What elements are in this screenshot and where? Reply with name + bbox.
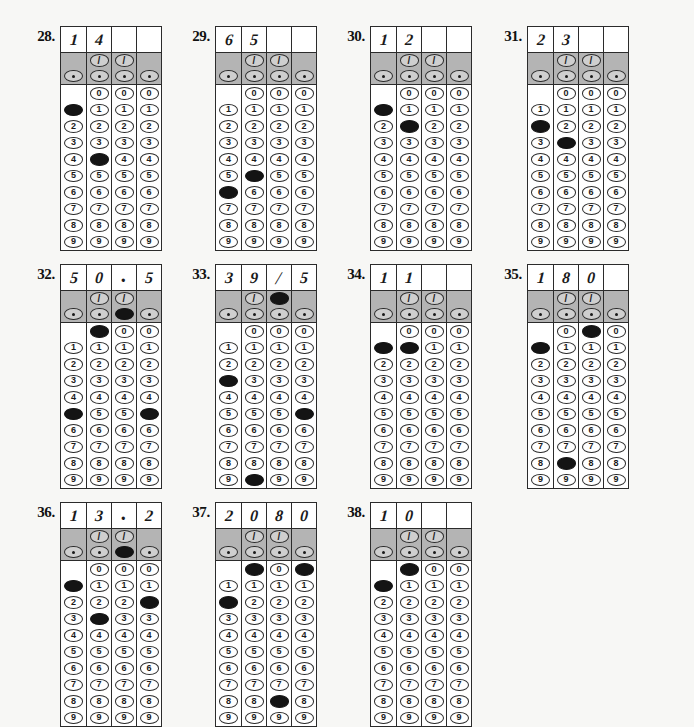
bubble-7[interactable]: 7 xyxy=(531,203,550,216)
bubble-6[interactable]: 6 xyxy=(115,186,134,199)
bubble-1[interactable]: 1 xyxy=(374,342,393,355)
bubble-0[interactable]: 0 xyxy=(140,87,159,100)
handwriting-box[interactable] xyxy=(603,27,628,52)
bubble-3[interactable]: 3 xyxy=(115,613,134,626)
bubble-0[interactable]: 0 xyxy=(90,87,109,100)
bubble-8[interactable]: 8 xyxy=(425,457,444,470)
handwriting-box[interactable] xyxy=(446,27,471,52)
bubble-5[interactable]: 5 xyxy=(531,408,550,421)
bubble-slash[interactable]: / xyxy=(245,54,264,67)
bubble-9[interactable]: 9 xyxy=(90,236,109,249)
bubble-4[interactable]: 4 xyxy=(450,391,469,404)
bubble-4[interactable]: 4 xyxy=(374,153,393,166)
handwriting-box[interactable]: 2 xyxy=(528,27,553,52)
bubble-4[interactable]: 4 xyxy=(219,629,238,642)
bubble-slash[interactable]: / xyxy=(425,54,444,67)
bubble-1[interactable]: 1 xyxy=(425,104,444,117)
bubble-6[interactable]: 6 xyxy=(582,186,601,199)
bubble-5[interactable]: 5 xyxy=(374,408,393,421)
bubble-2[interactable]: 2 xyxy=(140,120,159,133)
handwriting-box[interactable]: 0 xyxy=(241,503,266,528)
bubble-slash[interactable]: / xyxy=(90,292,109,305)
bubble-6[interactable]: 6 xyxy=(295,424,314,437)
bubble-6[interactable]: 6 xyxy=(374,186,393,199)
bubble-0[interactable]: 0 xyxy=(400,563,419,576)
bubble-5[interactable]: 5 xyxy=(90,170,109,183)
bubble-decimal[interactable] xyxy=(115,546,134,559)
bubble-3[interactable]: 3 xyxy=(140,613,159,626)
bubble-1[interactable]: 1 xyxy=(140,104,159,117)
bubble-7[interactable]: 7 xyxy=(607,441,626,454)
bubble-5[interactable]: 5 xyxy=(400,408,419,421)
bubble-0[interactable]: 0 xyxy=(115,87,134,100)
bubble-decimal[interactable] xyxy=(400,308,419,321)
bubble-1[interactable]: 1 xyxy=(245,342,264,355)
bubble-1[interactable]: 1 xyxy=(270,580,289,593)
bubble-1[interactable]: 1 xyxy=(64,342,83,355)
bubble-2[interactable]: 2 xyxy=(270,358,289,371)
handwriting-box[interactable]: 1 xyxy=(371,265,396,290)
bubble-9[interactable]: 9 xyxy=(64,712,83,725)
bubble-7[interactable]: 7 xyxy=(425,203,444,216)
bubble-6[interactable]: 6 xyxy=(450,424,469,437)
bubble-2[interactable]: 2 xyxy=(295,120,314,133)
bubble-3[interactable]: 3 xyxy=(295,375,314,388)
bubble-0[interactable]: 0 xyxy=(140,563,159,576)
bubble-7[interactable]: 7 xyxy=(64,203,83,216)
bubble-3[interactable]: 3 xyxy=(219,375,238,388)
bubble-decimal[interactable] xyxy=(531,70,550,83)
bubble-6[interactable]: 6 xyxy=(425,424,444,437)
bubble-slash[interactable]: / xyxy=(115,54,134,67)
bubble-1[interactable]: 1 xyxy=(400,342,419,355)
bubble-8[interactable]: 8 xyxy=(270,219,289,232)
bubble-slash[interactable]: / xyxy=(270,54,289,67)
bubble-1[interactable]: 1 xyxy=(270,342,289,355)
handwriting-box[interactable] xyxy=(603,265,628,290)
bubble-1[interactable]: 1 xyxy=(450,580,469,593)
bubble-decimal[interactable] xyxy=(582,70,601,83)
bubble-9[interactable]: 9 xyxy=(270,712,289,725)
bubble-4[interactable]: 4 xyxy=(64,153,83,166)
bubble-3[interactable]: 3 xyxy=(425,613,444,626)
bubble-9[interactable]: 9 xyxy=(425,236,444,249)
bubble-1[interactable]: 1 xyxy=(115,580,134,593)
bubble-8[interactable]: 8 xyxy=(64,457,83,470)
bubble-8[interactable]: 8 xyxy=(270,457,289,470)
bubble-7[interactable]: 7 xyxy=(582,203,601,216)
bubble-0[interactable]: 0 xyxy=(270,87,289,100)
bubble-6[interactable]: 6 xyxy=(90,424,109,437)
bubble-5[interactable]: 5 xyxy=(450,170,469,183)
bubble-0[interactable]: 0 xyxy=(557,325,576,338)
bubble-2[interactable]: 2 xyxy=(400,596,419,609)
bubble-decimal[interactable] xyxy=(607,308,626,321)
bubble-8[interactable]: 8 xyxy=(531,219,550,232)
bubble-4[interactable]: 4 xyxy=(400,153,419,166)
handwriting-box[interactable] xyxy=(291,27,316,52)
bubble-3[interactable]: 3 xyxy=(245,375,264,388)
bubble-8[interactable]: 8 xyxy=(219,695,238,708)
bubble-4[interactable]: 4 xyxy=(295,153,314,166)
bubble-6[interactable]: 6 xyxy=(140,186,159,199)
bubble-3[interactable]: 3 xyxy=(607,375,626,388)
handwriting-box[interactable]: 0 xyxy=(578,265,603,290)
bubble-9[interactable]: 9 xyxy=(582,474,601,487)
bubble-9[interactable]: 9 xyxy=(450,712,469,725)
bubble-3[interactable]: 3 xyxy=(450,375,469,388)
bubble-6[interactable]: 6 xyxy=(607,424,626,437)
bubble-7[interactable]: 7 xyxy=(245,441,264,454)
bubble-3[interactable]: 3 xyxy=(582,375,601,388)
bubble-8[interactable]: 8 xyxy=(557,219,576,232)
bubble-4[interactable]: 4 xyxy=(425,153,444,166)
bubble-8[interactable]: 8 xyxy=(374,219,393,232)
handwriting-box[interactable]: 1 xyxy=(371,503,396,528)
bubble-8[interactable]: 8 xyxy=(450,457,469,470)
bubble-1[interactable]: 1 xyxy=(374,580,393,593)
bubble-0[interactable]: 0 xyxy=(450,563,469,576)
bubble-6[interactable]: 6 xyxy=(425,662,444,675)
bubble-2[interactable]: 2 xyxy=(531,120,550,133)
handwriting-box[interactable] xyxy=(266,27,291,52)
bubble-8[interactable]: 8 xyxy=(90,457,109,470)
bubble-7[interactable]: 7 xyxy=(400,679,419,692)
bubble-decimal[interactable] xyxy=(557,308,576,321)
bubble-2[interactable]: 2 xyxy=(245,596,264,609)
